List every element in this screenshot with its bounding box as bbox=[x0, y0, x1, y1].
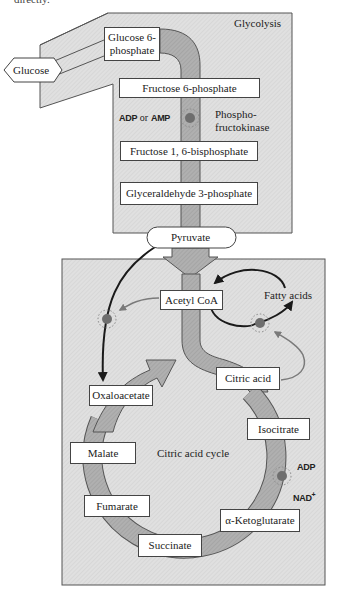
fructose-bisphosphate-box: Fructose 1, 6-bisphosphate bbox=[120, 141, 258, 161]
citric-acid-box: Citric acid bbox=[216, 367, 280, 390]
isocitrate-box: Isocitrate bbox=[247, 418, 310, 440]
glucose-label: Glucose bbox=[13, 65, 49, 76]
glyceraldehyde-3-phosphate-box: Glyceraldehyde 3-phosphate bbox=[120, 182, 258, 205]
enzyme-line2: fructokinase bbox=[215, 121, 269, 134]
fructose-6-phosphate-box: Fructose 6-phosphate bbox=[119, 78, 260, 98]
glucose-6-phosphate-box: Glucose 6- phosphate bbox=[104, 27, 160, 61]
or-label: or bbox=[140, 112, 148, 123]
acetyl-coa-box: Acetyl CoA bbox=[160, 290, 223, 310]
oxaloacetate-box: Oxaloacetate bbox=[89, 385, 153, 406]
nad-superscript: + bbox=[312, 491, 316, 498]
nad-text: NAD bbox=[293, 493, 312, 503]
enzyme-line1: Phospho- bbox=[215, 108, 269, 121]
pyruvate-label: Pyruvate bbox=[171, 232, 210, 243]
adp-regulator-label: ADP bbox=[297, 463, 315, 472]
fatty-acids-label: Fatty acids bbox=[264, 290, 312, 301]
succinate-box: Succinate bbox=[138, 534, 202, 557]
pfk-regulators: ADP or AMP bbox=[119, 112, 170, 123]
nad-regulator-label: NAD+ bbox=[293, 491, 315, 503]
glucose-6-phosphate-line2: phosphate bbox=[110, 44, 155, 57]
glucose-6-phosphate-line1: Glucose 6- bbox=[108, 31, 156, 44]
adp-label: ADP bbox=[119, 113, 137, 123]
malate-box: Malate bbox=[70, 442, 136, 464]
glycolysis-title: Glycolysis bbox=[234, 18, 281, 29]
citric-acid-cycle-title: Citric acid cycle bbox=[157, 448, 229, 459]
fumarate-box: Fumarate bbox=[84, 495, 150, 517]
amp-label: AMP bbox=[151, 113, 170, 123]
alpha-ketoglutarate-box: α-Ketoglutarate bbox=[220, 509, 300, 532]
phosphofructokinase-label: Phospho- fructokinase bbox=[215, 108, 269, 133]
